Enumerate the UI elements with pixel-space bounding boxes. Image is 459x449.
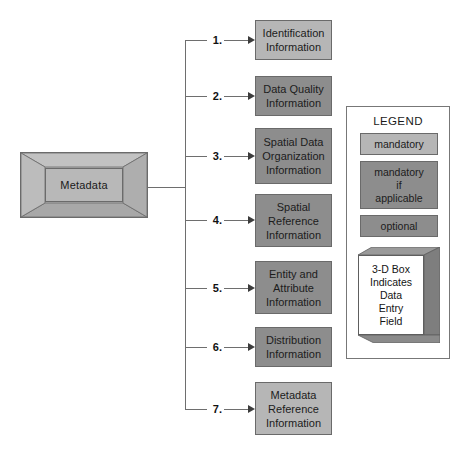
branch-number-2: 2. bbox=[206, 90, 222, 102]
branch-line-3b bbox=[224, 156, 248, 157]
branch-number-7: 7. bbox=[206, 403, 222, 415]
branch-number-3: 3. bbox=[206, 150, 222, 162]
branch-line-1 bbox=[185, 40, 207, 41]
branch-line-2 bbox=[185, 96, 207, 97]
branch-line-7 bbox=[185, 409, 207, 410]
legend-3d-box-sample: 3-D BoxIndicatesDataEntryField bbox=[358, 247, 440, 343]
branch-line-5 bbox=[185, 288, 207, 289]
node-identification-information[interactable]: IdentificationInformation bbox=[255, 20, 332, 60]
legend-swatch-mandatory-if-applicable: mandatoryifapplicable bbox=[360, 161, 438, 209]
branch-line-1b bbox=[224, 40, 248, 41]
arrow-head-1 bbox=[248, 36, 255, 44]
branch-number-1: 1. bbox=[206, 34, 222, 46]
legend-panel: LEGEND mandatory mandatoryifapplicable o… bbox=[346, 106, 450, 359]
metadata-root-box: Metadata bbox=[20, 152, 148, 218]
node-metadata-reference-information[interactable]: MetadataReferenceInformation bbox=[255, 382, 332, 435]
legend-3d-box-label: 3-D BoxIndicatesDataEntryField bbox=[358, 255, 424, 335]
arrow-head-3 bbox=[248, 152, 255, 160]
branch-number-5: 5. bbox=[206, 282, 222, 294]
node-data-quality-information[interactable]: Data QualityInformation bbox=[255, 76, 332, 116]
arrow-head-6 bbox=[248, 343, 255, 351]
metadata-root-label: Metadata bbox=[60, 179, 107, 191]
arrow-head-5 bbox=[248, 284, 255, 292]
branch-number-6: 6. bbox=[206, 341, 222, 353]
arrow-head-7 bbox=[248, 405, 255, 413]
arrow-head-2 bbox=[248, 92, 255, 100]
node-spatial-reference-information[interactable]: SpatialReferenceInformation bbox=[255, 194, 332, 247]
legend-swatch-mandatory: mandatory bbox=[360, 133, 438, 155]
legend-title: LEGEND bbox=[347, 115, 449, 127]
branch-line-5b bbox=[224, 288, 248, 289]
branch-line-3 bbox=[185, 156, 207, 157]
branch-line-6 bbox=[185, 347, 207, 348]
node-entity-and-attribute-information[interactable]: Entity andAttributeInformation bbox=[255, 261, 332, 314]
diagram-canvas: Metadata 1. 2. 3. 4. 5. 6. 7. Identifica… bbox=[0, 0, 459, 449]
branch-line-4 bbox=[185, 220, 207, 221]
node-spatial-data-organization-information[interactable]: Spatial DataOrganizationInformation bbox=[255, 128, 332, 184]
metadata-root-face: Metadata bbox=[45, 168, 123, 202]
legend-swatch-optional: optional bbox=[360, 215, 438, 237]
branch-line-4b bbox=[224, 220, 248, 221]
branch-number-4: 4. bbox=[206, 214, 222, 226]
branch-line-6b bbox=[224, 347, 248, 348]
branch-line-7b bbox=[224, 409, 248, 410]
arrow-head-4 bbox=[248, 216, 255, 224]
branch-line-2b bbox=[224, 96, 248, 97]
node-distribution-information[interactable]: DistributionInformation bbox=[255, 327, 332, 367]
root-stem-line bbox=[148, 187, 185, 188]
